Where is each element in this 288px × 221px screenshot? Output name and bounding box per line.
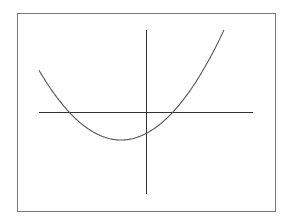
parabola-chart [0, 0, 288, 221]
parabola-curve [39, 30, 224, 140]
